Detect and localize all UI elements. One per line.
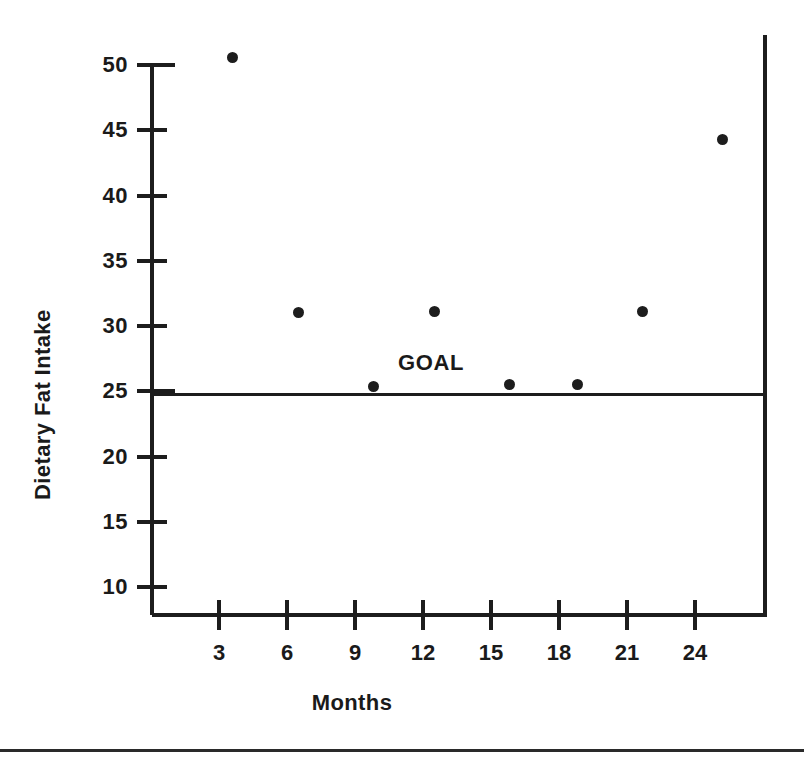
y-axis-tick-mark [137, 520, 167, 524]
y-axis-tick-label-text: 45 [82, 119, 128, 141]
x-axis-tick-mark [489, 600, 493, 630]
x-axis-tick-mark [421, 600, 425, 630]
data-point [429, 306, 440, 317]
y-axis-tick-mark [137, 128, 167, 132]
x-axis-tick-label: 21 [597, 642, 657, 664]
data-point [504, 379, 515, 390]
plot-area [152, 35, 765, 615]
x-axis-tick-mark [625, 600, 629, 630]
x-axis-tick-label: 24 [665, 642, 725, 664]
y-axis-tick-mark [137, 455, 167, 459]
x-axis-tick-label: 18 [529, 642, 589, 664]
y-axis-tick-label-text: 50 [82, 54, 128, 76]
y-axis-tick-label-text: 25 [82, 380, 128, 402]
y-axis-tick-label-text: 35 [82, 250, 128, 272]
x-axis-tick-mark [557, 600, 561, 630]
x-axis-tick-label: 9 [325, 642, 385, 664]
y-axis-title: Dietary Fat Intake [20, 0, 46, 200]
y-axis-tick-label-text: 15 [82, 511, 128, 533]
y-axis-tick-label-text: 20 [82, 446, 128, 468]
x-axis-tick-mark [693, 600, 697, 630]
x-axis-tick-mark [217, 600, 221, 630]
x-axis-tick-label: 12 [393, 642, 453, 664]
y-axis-tick-mark [137, 259, 167, 263]
y-axis-spine [150, 63, 154, 615]
y-axis-tick-mark [137, 585, 167, 589]
chart-figure: 101520253035404550 3691215182124 GOAL Di… [0, 0, 804, 764]
y-axis-tick-mark [137, 194, 167, 198]
y-axis-tick-mark [137, 324, 167, 328]
y-axis-tick-label-text: 40 [82, 185, 128, 207]
x-axis-tick-label: 6 [257, 642, 317, 664]
page-bottom-rule [0, 749, 804, 752]
x-axis-spine [152, 613, 765, 617]
goal-annotation-label: GOAL [398, 352, 464, 374]
plot-frame-right-border [763, 35, 767, 617]
x-axis-title: Months [0, 690, 804, 716]
x-axis-tick-mark [285, 600, 289, 630]
y-axis-title-text: Dietary Fat Intake [30, 160, 56, 500]
y-axis-tick-label-text: 10 [82, 576, 128, 598]
x-axis-tick-label: 15 [461, 642, 521, 664]
data-point [368, 381, 379, 392]
y-axis-tick-mark [137, 63, 175, 67]
x-axis-tick-mark [353, 600, 357, 630]
data-point [572, 379, 583, 390]
goal-reference-line [152, 393, 765, 396]
y-axis-tick-label-text: 30 [82, 315, 128, 337]
x-axis-tick-label: 3 [189, 642, 249, 664]
data-point [717, 134, 728, 145]
x-axis-title-text: Months [312, 690, 393, 716]
data-point [227, 52, 238, 63]
